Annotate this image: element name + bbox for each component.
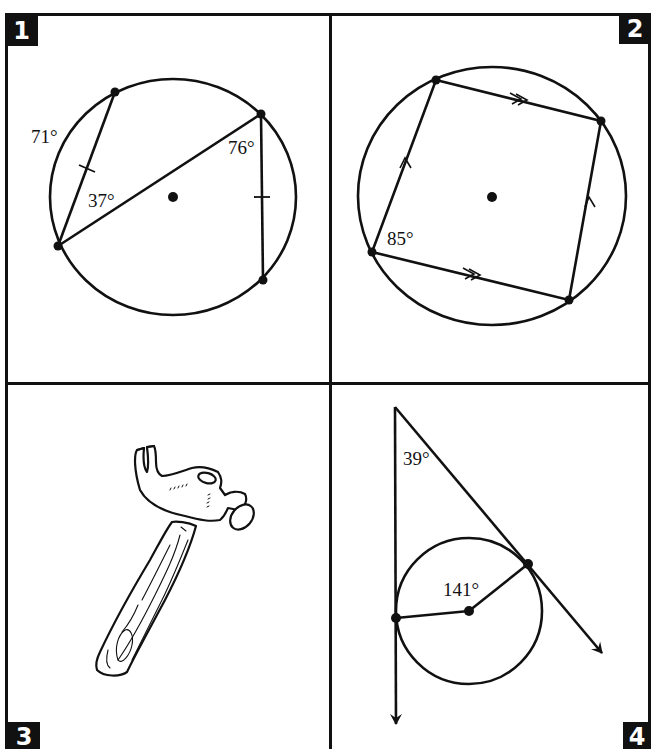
quadrilateral bbox=[372, 80, 601, 300]
vertex-top-left bbox=[432, 76, 441, 85]
point-left bbox=[54, 242, 63, 251]
point-right-bottom bbox=[259, 276, 268, 285]
label-71: 71° bbox=[31, 126, 58, 147]
radius-left bbox=[396, 611, 469, 618]
point-top bbox=[111, 88, 120, 97]
diagrams-canvas: 71° 37° 76° 85° bbox=[0, 0, 655, 749]
center-point bbox=[487, 192, 497, 202]
tangent-point-left bbox=[391, 613, 401, 623]
hammer-head bbox=[135, 446, 246, 521]
label-85: 85° bbox=[387, 228, 414, 249]
tangent-vertical bbox=[395, 407, 396, 724]
chord-diagonal bbox=[58, 114, 261, 246]
vertex-top-right bbox=[597, 117, 606, 126]
center-point bbox=[464, 606, 474, 616]
panel-2-points bbox=[368, 76, 606, 305]
label-37: 37° bbox=[88, 190, 115, 211]
label-76: 76° bbox=[228, 137, 255, 158]
vertex-bottom-right bbox=[565, 296, 574, 305]
panel-1-points bbox=[54, 88, 268, 285]
tangent-point-upper bbox=[523, 559, 533, 569]
center-point bbox=[168, 192, 178, 202]
point-right-top bbox=[257, 110, 266, 119]
hammer-handle bbox=[96, 522, 196, 676]
label-141: 141° bbox=[443, 579, 479, 600]
label-39: 39° bbox=[403, 448, 430, 469]
vertex-bottom-left bbox=[368, 248, 377, 257]
hammer-illustration bbox=[96, 446, 258, 676]
worksheet: 1 2 3 4 71° 37° 76° bbox=[0, 0, 655, 749]
